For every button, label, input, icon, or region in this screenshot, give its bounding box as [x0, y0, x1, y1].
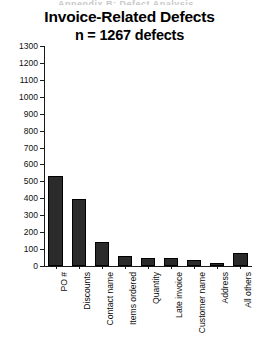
y-axis-tick-label: 0	[33, 262, 38, 271]
x-axis-tick	[125, 266, 126, 269]
y-axis-tick-label: 1300	[19, 42, 38, 51]
y-axis-tick-label: 1200	[19, 58, 38, 67]
bar	[164, 258, 178, 266]
y-axis-line	[44, 46, 45, 267]
y-axis-tick-label: 200	[24, 228, 38, 237]
chart-figure: Appendix B: Defect Analysis Invoice-Rela…	[0, 0, 259, 355]
bar	[48, 176, 62, 266]
y-axis-tick-label: 600	[24, 160, 38, 169]
y-axis-tick-label: 100	[24, 245, 38, 254]
x-axis-tick	[171, 266, 172, 269]
x-axis-category-label: Customer name	[198, 272, 207, 333]
y-axis-tick	[40, 249, 44, 250]
y-axis-tick-label: 800	[24, 126, 38, 135]
y-axis-tick	[40, 215, 44, 216]
y-axis-tick-label: 1000	[19, 92, 38, 101]
y-axis-tick	[40, 63, 44, 64]
y-axis-tick	[40, 181, 44, 182]
y-axis-tick-label: 700	[24, 143, 38, 152]
y-axis-tick	[40, 232, 44, 233]
x-axis-tick	[194, 266, 195, 269]
x-axis-tick	[148, 266, 149, 269]
y-axis-tick	[40, 46, 44, 47]
bar	[233, 253, 247, 266]
bar	[95, 242, 109, 266]
x-axis-tick	[102, 266, 103, 269]
y-axis-tick	[40, 80, 44, 81]
x-axis-category-label: Quantity	[152, 272, 161, 304]
y-axis-tick	[40, 148, 44, 149]
bar	[72, 199, 86, 266]
x-axis-category-label: Address	[221, 272, 230, 304]
y-axis-tick	[40, 114, 44, 115]
chart-title: Invoice-Related Defects	[0, 8, 259, 26]
title-block: Invoice-Related Defects n = 1267 defects	[0, 8, 259, 44]
y-axis-tick	[40, 97, 44, 98]
x-axis-tick	[240, 266, 241, 269]
chart-subtitle: n = 1267 defects	[0, 26, 259, 44]
y-axis-tick	[40, 198, 44, 199]
y-axis-tick-label: 300	[24, 211, 38, 220]
clipped-header-artifact: Appendix B: Defect Analysis	[58, 0, 208, 5]
y-axis-tick-label: 400	[24, 194, 38, 203]
x-axis-tick	[79, 266, 80, 269]
x-axis-category-label: Items ordered	[129, 272, 138, 325]
x-axis-category-label: Discounts	[83, 272, 92, 310]
y-axis-tick	[40, 131, 44, 132]
x-axis-category-label: All others	[244, 272, 253, 308]
x-axis-tick	[56, 266, 57, 269]
y-axis-tick	[40, 164, 44, 165]
y-axis-tick	[40, 266, 44, 267]
plot-area: 0100200300400500600700800900100011001200…	[44, 46, 252, 266]
y-axis-tick-label: 1100	[20, 75, 38, 84]
bar	[141, 258, 155, 266]
x-axis-category-label: Late invoice	[175, 272, 184, 318]
x-axis-tick	[217, 266, 218, 269]
x-axis-category-label: Contact name	[106, 272, 115, 326]
y-axis-tick-label: 500	[24, 177, 38, 186]
x-axis-category-label: PO #	[60, 272, 69, 292]
bar	[118, 256, 132, 266]
y-axis-tick-label: 900	[24, 109, 38, 118]
